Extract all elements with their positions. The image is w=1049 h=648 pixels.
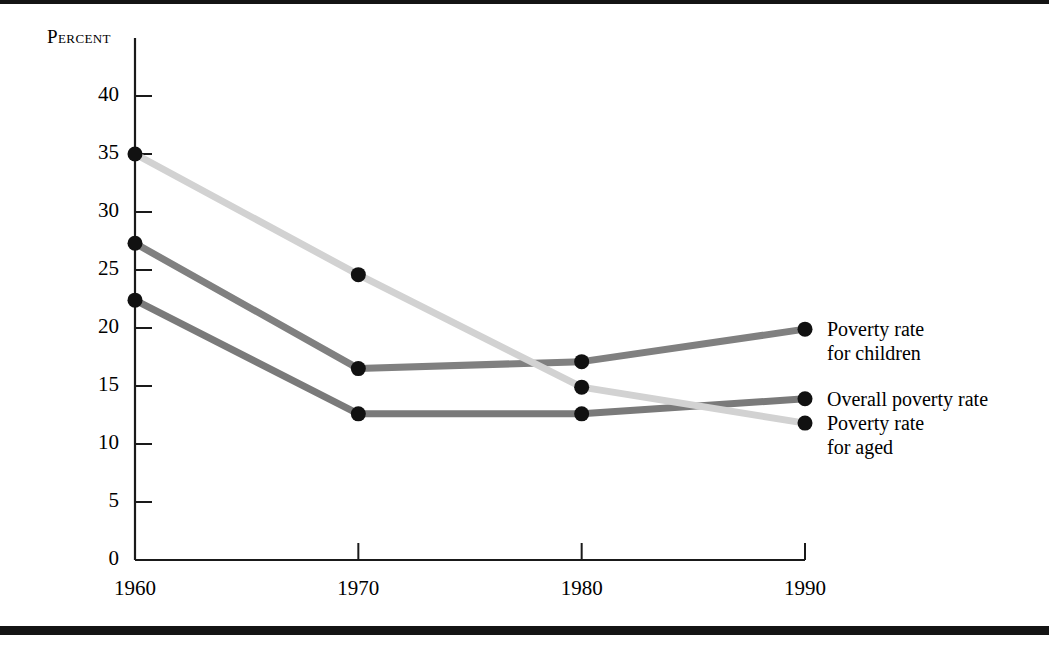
data-point-marker xyxy=(798,322,813,337)
series-label-line: for aged xyxy=(827,435,924,459)
data-point-marker xyxy=(798,391,813,406)
data-point-marker xyxy=(574,380,589,395)
series-label: Poverty ratefor children xyxy=(827,317,924,365)
x-axis-ticks xyxy=(135,543,805,560)
x-tick-label: 1980 xyxy=(522,576,642,601)
data-point-marker xyxy=(574,354,589,369)
series-label: Poverty ratefor aged xyxy=(827,411,924,459)
data-point-marker xyxy=(351,267,366,282)
series-label-line: Overall poverty rate xyxy=(827,387,988,411)
y-tick-label: 35 xyxy=(59,140,119,165)
data-point-marker xyxy=(798,416,813,431)
data-point-marker xyxy=(128,293,143,308)
poverty-rate-figure: Percent 0510152025303540 196019701980199… xyxy=(0,0,1049,648)
data-point-marker xyxy=(351,406,366,421)
y-tick-label: 20 xyxy=(59,314,119,339)
y-tick-label: 10 xyxy=(59,430,119,455)
bottom-rule xyxy=(0,626,1049,635)
y-tick-label: 40 xyxy=(59,82,119,107)
data-markers-group xyxy=(128,147,813,431)
x-tick-label: 1970 xyxy=(298,576,418,601)
y-tick-label: 0 xyxy=(59,546,119,571)
series-label: Overall poverty rate xyxy=(827,387,988,411)
series-label-line: Poverty rate xyxy=(827,317,924,341)
y-tick-label: 30 xyxy=(59,198,119,223)
data-point-marker xyxy=(128,236,143,251)
data-point-marker xyxy=(351,361,366,376)
y-tick-label: 25 xyxy=(59,256,119,281)
y-tick-label: 5 xyxy=(59,488,119,513)
data-point-marker xyxy=(128,147,143,162)
x-tick-label: 1990 xyxy=(745,576,865,601)
series-label-line: for children xyxy=(827,341,924,365)
series-line xyxy=(135,154,805,423)
y-tick-label: 15 xyxy=(59,372,119,397)
data-point-marker xyxy=(574,406,589,421)
series-label-line: Poverty rate xyxy=(827,411,924,435)
data-series-group xyxy=(135,154,805,423)
x-tick-label: 1960 xyxy=(75,576,195,601)
series-line xyxy=(135,300,805,414)
